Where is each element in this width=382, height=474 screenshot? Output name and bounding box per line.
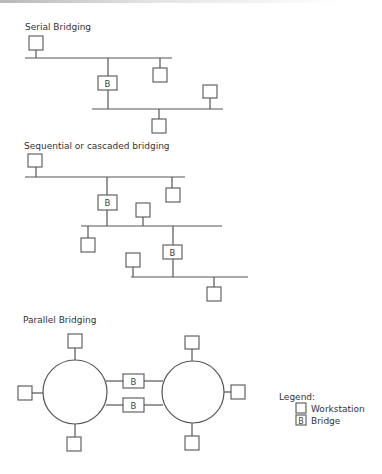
workstation bbox=[28, 154, 42, 167]
section-title-parallel: Parallel Bridging bbox=[23, 315, 96, 325]
workstation bbox=[81, 238, 95, 252]
bridging-diagram: Serial Bridging B Sequential or cascaded… bbox=[0, 0, 382, 474]
bridge-label: B bbox=[105, 79, 111, 89]
workstation bbox=[29, 36, 43, 50]
legend-workstation-label: Workstation bbox=[311, 404, 365, 414]
workstation bbox=[231, 385, 245, 399]
workstation bbox=[67, 437, 81, 451]
bridge: B bbox=[163, 245, 182, 259]
workstation bbox=[136, 203, 150, 217]
serial-bridging-section: Serial Bridging B bbox=[25, 22, 223, 133]
parallel-bridging-section: Parallel Bridging B B bbox=[18, 315, 245, 451]
legend: Legend: Workstation B Bridge bbox=[279, 392, 365, 426]
workstation bbox=[126, 253, 140, 267]
bridge: B bbox=[123, 398, 144, 412]
legend-bridge-label: Bridge bbox=[311, 416, 341, 426]
section-title-serial: Serial Bridging bbox=[25, 22, 91, 32]
section-title-cascaded: Sequential or cascaded bridging bbox=[24, 141, 170, 151]
legend-workstation-symbol bbox=[296, 403, 306, 413]
workstation bbox=[207, 287, 221, 301]
bridge-label: B bbox=[131, 377, 137, 387]
bridge-label: B bbox=[105, 198, 111, 208]
workstation bbox=[203, 85, 217, 98]
ring-network bbox=[43, 360, 107, 424]
workstation bbox=[18, 386, 32, 400]
cascaded-bridging-section: Sequential or cascaded bridging B B bbox=[24, 141, 248, 301]
ring-network bbox=[162, 361, 224, 423]
legend-bridge-symbol-label: B bbox=[298, 417, 304, 426]
bridge-label: B bbox=[131, 401, 137, 411]
bridge: B bbox=[98, 76, 117, 90]
workstation bbox=[185, 336, 199, 349]
workstation bbox=[153, 68, 167, 82]
bridge-label: B bbox=[170, 248, 176, 258]
legend-title: Legend: bbox=[279, 392, 315, 402]
bridge: B bbox=[98, 195, 117, 210]
workstation bbox=[185, 436, 199, 450]
workstation bbox=[166, 188, 180, 202]
workstation bbox=[68, 334, 82, 348]
bridge: B bbox=[123, 374, 144, 388]
workstation bbox=[152, 119, 166, 133]
